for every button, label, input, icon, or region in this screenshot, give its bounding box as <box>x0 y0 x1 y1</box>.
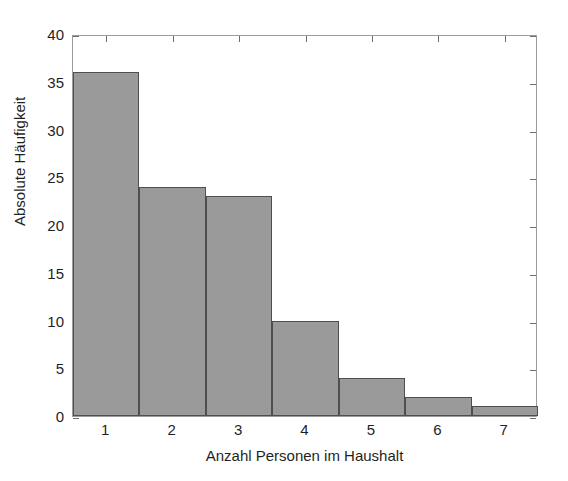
histogram-figure: Absolute Häufigkeit Anzahl Personen im H… <box>0 0 568 481</box>
y-axis-tick-label: 10 <box>0 314 64 329</box>
y-axis-tick-label: 40 <box>0 27 64 42</box>
y-axis-tick <box>73 418 79 419</box>
bar <box>73 72 139 416</box>
y-axis-tick-label: 20 <box>0 218 64 233</box>
bar <box>339 378 405 416</box>
x-axis-tick-label: 2 <box>152 422 192 437</box>
x-axis-tick-label: 6 <box>417 422 457 437</box>
bars-layer <box>73 36 536 416</box>
bar <box>206 196 272 416</box>
x-axis-tick-label: 7 <box>484 422 524 437</box>
plot-area <box>72 35 537 417</box>
y-axis-tick-label: 25 <box>0 170 64 185</box>
x-axis-tick-label: 3 <box>218 422 258 437</box>
y-axis-tick-label: 30 <box>0 123 64 138</box>
y-axis-tick-mirror <box>530 418 536 419</box>
x-axis-tick-label: 4 <box>285 422 325 437</box>
bar <box>272 321 338 417</box>
bar <box>405 397 471 416</box>
y-axis-tick-label: 0 <box>0 409 64 424</box>
y-axis-tick-label: 5 <box>0 361 64 376</box>
x-axis-tick-label: 1 <box>85 422 125 437</box>
bar <box>139 187 205 416</box>
bar <box>472 406 538 416</box>
x-axis-label: Anzahl Personen im Haushalt <box>72 448 537 464</box>
y-axis-tick-label: 35 <box>0 75 64 90</box>
y-axis-tick-label: 15 <box>0 266 64 281</box>
x-axis-tick-label: 5 <box>351 422 391 437</box>
